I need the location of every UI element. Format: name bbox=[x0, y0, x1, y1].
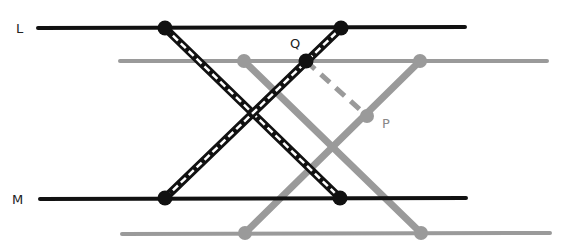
transversal-diagram: L M Q P bbox=[0, 0, 561, 249]
line-L bbox=[38, 27, 465, 28]
gray-point-top-left bbox=[237, 54, 251, 68]
qp-dashed-segment bbox=[306, 61, 367, 116]
gray-point-bottom-right bbox=[414, 226, 428, 240]
black-point-M-left bbox=[158, 191, 173, 206]
black-point-L-left bbox=[158, 21, 173, 36]
label-L: L bbox=[16, 21, 24, 36]
black-point-M-right bbox=[333, 191, 348, 206]
point-Q bbox=[299, 54, 314, 69]
gray-point-bottom-left bbox=[238, 226, 252, 240]
gray-line-bottom bbox=[122, 233, 550, 234]
black-point-L-right bbox=[334, 21, 349, 36]
line-M bbox=[40, 198, 466, 199]
label-M: M bbox=[12, 192, 23, 207]
gray-point-top-right bbox=[413, 54, 427, 68]
point-P bbox=[360, 109, 374, 123]
label-Q: Q bbox=[290, 36, 300, 51]
label-P: P bbox=[382, 116, 390, 131]
